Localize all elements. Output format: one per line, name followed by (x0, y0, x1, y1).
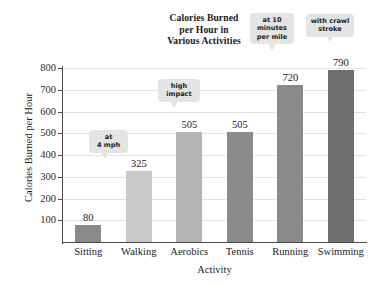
callout-aerobics-tail (170, 101, 178, 108)
callout-walking-line-1: at (93, 133, 124, 141)
chart-title-line-3: Various Activities (148, 35, 260, 47)
callout-aerobics-line-2: impact (162, 90, 196, 98)
gridline (63, 199, 366, 200)
y-tick-label: 600 (16, 107, 56, 117)
x-tick-label-swimming: Swimming (301, 246, 373, 258)
y-tick-label: 200 (16, 194, 56, 204)
callout-aerobics: high impact (158, 79, 200, 102)
callout-running-line-2: minutes (254, 24, 290, 32)
bar-swimming (328, 70, 354, 242)
bar-running (277, 85, 303, 242)
callout-running-line-1: at 10 (254, 16, 290, 24)
gridline (63, 177, 366, 178)
gridline (63, 90, 366, 91)
bar-value-sitting: 80 (63, 212, 113, 223)
bar-value-walking: 325 (114, 158, 164, 169)
bar-tennis (227, 132, 253, 242)
bar-chart: Calories Burned per Hour in Various Acti… (0, 0, 373, 286)
callout-walking-tail (101, 152, 109, 159)
bar-value-swimming: 790 (316, 57, 366, 68)
callout-running: at 10 minutes per mile (250, 13, 294, 44)
callout-swimming-line-2: stroke (310, 25, 350, 33)
chart-title: Calories Burned per Hour in Various Acti… (148, 12, 260, 47)
y-tick-label: 700 (16, 85, 56, 95)
callout-swimming: with crawl stroke (306, 14, 354, 37)
y-tick-label: 100 (16, 215, 56, 225)
y-tick-mark (58, 177, 63, 178)
y-tick-mark (58, 220, 63, 221)
y-tick-label: 300 (16, 172, 56, 182)
callout-aerobics-line-1: high (162, 82, 196, 90)
y-tick-label: 500 (16, 128, 56, 138)
bar-value-running: 720 (265, 72, 315, 83)
bar-sitting (75, 225, 101, 242)
callout-swimming-tail (326, 35, 334, 42)
callout-walking-line-2: 4 mph (93, 141, 124, 149)
callout-walking: at 4 mph (89, 130, 128, 153)
bar-aerobics (176, 132, 202, 242)
x-axis-line (62, 242, 367, 243)
callout-running-line-3: per mile (254, 33, 290, 41)
chart-title-line-2: per Hour in (148, 24, 260, 36)
callout-running-tail (268, 44, 276, 51)
y-tick-mark (58, 155, 63, 156)
bar-walking (126, 171, 152, 242)
y-tick-mark (58, 68, 63, 69)
y-tick-mark (58, 112, 63, 113)
bar-value-aerobics: 505 (164, 119, 214, 130)
y-tick-mark (58, 199, 63, 200)
y-tick-label: 800 (16, 63, 56, 73)
y-tick-label: 400 (16, 150, 56, 160)
callout-swimming-line-1: with crawl (310, 17, 350, 25)
gridline (63, 112, 366, 113)
bar-value-tennis: 505 (215, 119, 265, 130)
chart-title-line-1: Calories Burned (148, 12, 260, 24)
x-axis-title: Activity (63, 264, 366, 275)
y-tick-mark (58, 90, 63, 91)
y-tick-mark (58, 133, 63, 134)
